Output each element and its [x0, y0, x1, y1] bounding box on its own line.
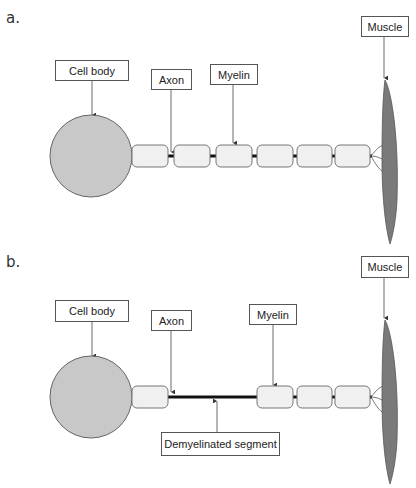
cell-body-b: [50, 356, 132, 438]
muscle-b: [382, 320, 397, 484]
label-axon-a: Axon: [151, 69, 192, 90]
label-cell-body-b: Cell body: [55, 300, 129, 322]
label-myelin-a: Myelin: [210, 64, 258, 85]
cell-body-a: [50, 115, 132, 197]
label-demyelinated-segment: Demyelinated segment: [161, 432, 280, 456]
label-muscle-b: Muscle: [361, 256, 409, 278]
muscle-a: [382, 80, 397, 244]
label-myelin-b: Myelin: [249, 304, 297, 325]
label-cell-body-a: Cell body: [55, 60, 129, 81]
label-axon-b: Axon: [151, 310, 192, 331]
label-muscle-a: Muscle: [361, 16, 409, 37]
